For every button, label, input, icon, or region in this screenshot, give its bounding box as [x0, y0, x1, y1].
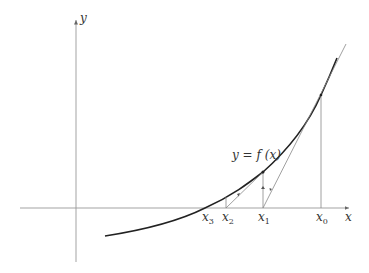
x2-label: x2 — [222, 211, 234, 226]
x1-label: x1 — [258, 211, 270, 226]
y-axis-label: y — [80, 12, 87, 24]
diagram-canvas — [0, 0, 369, 273]
point-f-x0 — [320, 94, 323, 97]
newton-method-diagram: y x y = f (x) x0 x1 x2 x3 — [0, 0, 369, 273]
point-f-x1 — [262, 171, 265, 174]
arrow-icon — [261, 186, 265, 189]
tangent-line-x1 — [226, 172, 263, 208]
tangent-line-x0 — [263, 44, 346, 208]
curve-label: y = f (x) — [232, 149, 281, 161]
function-curve — [105, 58, 337, 236]
x-axis-label: x — [345, 211, 352, 223]
x0-label: x0 — [316, 211, 328, 226]
x3-label: x3 — [202, 211, 214, 226]
